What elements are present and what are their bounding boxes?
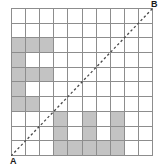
grid-cell-empty xyxy=(12,127,26,142)
grid-cell-empty xyxy=(40,112,54,127)
grid-cell-filled xyxy=(12,97,26,112)
grid-cell-empty xyxy=(12,9,26,24)
grid-cell-empty xyxy=(111,53,125,68)
grid-cell-empty xyxy=(26,112,40,127)
grid-cell-empty xyxy=(97,53,111,68)
grid-cell-filled xyxy=(111,141,125,156)
grid-cell-empty xyxy=(54,53,68,68)
grid-cell-empty xyxy=(40,53,54,68)
grid-cell-filled xyxy=(26,68,40,83)
grid-cell-filled xyxy=(97,141,111,156)
grid-cell-filled xyxy=(54,112,68,127)
grid-cell-empty xyxy=(139,53,153,68)
grid-cell-filled xyxy=(83,127,97,142)
grid-cell-empty xyxy=(125,82,139,97)
grid-cell-empty xyxy=(40,9,54,24)
grid-cell-empty xyxy=(68,68,82,83)
grid-cell-empty xyxy=(54,97,68,112)
grid-cell-empty xyxy=(139,112,153,127)
grid-cell-filled xyxy=(83,112,97,127)
grid-cell-empty xyxy=(40,141,54,156)
grid-cell-empty xyxy=(125,127,139,142)
grid-cell-empty xyxy=(111,68,125,83)
grid-cell-empty xyxy=(139,24,153,39)
grid-cell-empty xyxy=(40,127,54,142)
grid-cell-empty xyxy=(97,82,111,97)
figure-container: A B xyxy=(0,0,165,168)
grid-cell-filled xyxy=(68,141,82,156)
grid-cell-empty xyxy=(12,24,26,39)
grid-cell-filled xyxy=(40,38,54,53)
grid-cell-empty xyxy=(26,82,40,97)
grid-cell-empty xyxy=(125,141,139,156)
grid-cell-filled xyxy=(111,127,125,142)
cell-grid xyxy=(11,8,153,156)
grid-cell-empty xyxy=(83,9,97,24)
grid-cell-filled xyxy=(54,127,68,142)
grid-cell-empty xyxy=(54,9,68,24)
grid-cell-empty xyxy=(26,141,40,156)
grid-cell-empty xyxy=(111,24,125,39)
grid-cell-empty xyxy=(26,53,40,68)
grid-cell-empty xyxy=(111,38,125,53)
grid-cell-empty xyxy=(68,82,82,97)
grid-cell-empty xyxy=(68,53,82,68)
grid-cell-empty xyxy=(68,9,82,24)
grid-cell-filled xyxy=(12,38,26,53)
grid-cell-empty xyxy=(83,38,97,53)
grid-cell-empty xyxy=(97,68,111,83)
grid-cell-filled xyxy=(12,68,26,83)
grid-cell-empty xyxy=(68,127,82,142)
grid-cell-empty xyxy=(139,97,153,112)
grid-cell-empty xyxy=(83,82,97,97)
grid-cell-filled xyxy=(12,53,26,68)
grid-cell-empty xyxy=(54,68,68,83)
grid-cell-empty xyxy=(97,9,111,24)
grid-cell-empty xyxy=(12,141,26,156)
grid-cell-empty xyxy=(83,97,97,112)
label-point-a: A xyxy=(10,157,17,166)
grid-cell-empty xyxy=(125,112,139,127)
grid-cell-empty xyxy=(68,97,82,112)
grid-cell-empty xyxy=(139,68,153,83)
grid-cell-empty xyxy=(12,112,26,127)
grid-cell-empty xyxy=(111,97,125,112)
grid-cell-empty xyxy=(125,38,139,53)
grid-cell-empty xyxy=(125,97,139,112)
grid-cell-empty xyxy=(125,9,139,24)
grid-cell-empty xyxy=(83,24,97,39)
grid-cell-empty xyxy=(139,82,153,97)
grid-cell-empty xyxy=(125,24,139,39)
grid-cell-empty xyxy=(40,97,54,112)
grid-cell-empty xyxy=(54,24,68,39)
grid-cell-empty xyxy=(111,9,125,24)
grid-cell-empty xyxy=(54,82,68,97)
grid-cell-filled xyxy=(26,97,40,112)
grid-cell-filled xyxy=(40,68,54,83)
grid-cell-empty xyxy=(40,82,54,97)
grid-cell-empty xyxy=(68,112,82,127)
grid-cell-empty xyxy=(68,24,82,39)
grid-cell-empty xyxy=(83,53,97,68)
grid-cell-filled xyxy=(54,141,68,156)
grid-wrapper xyxy=(11,8,153,156)
grid-cell-filled xyxy=(83,141,97,156)
grid-cell-empty xyxy=(139,127,153,142)
grid-cell-empty xyxy=(26,24,40,39)
grid-cell-empty xyxy=(26,127,40,142)
grid-cell-filled xyxy=(111,112,125,127)
grid-cell-empty xyxy=(97,127,111,142)
grid-cell-empty xyxy=(97,38,111,53)
grid-cell-filled xyxy=(26,38,40,53)
grid-cell-empty xyxy=(139,9,153,24)
grid-cell-empty xyxy=(97,97,111,112)
grid-cell-empty xyxy=(97,24,111,39)
label-point-b: B xyxy=(151,0,158,9)
grid-cell-empty xyxy=(139,141,153,156)
grid-cell-empty xyxy=(139,38,153,53)
grid-cell-empty xyxy=(40,24,54,39)
grid-cell-empty xyxy=(26,9,40,24)
grid-cell-empty xyxy=(97,112,111,127)
grid-cell-empty xyxy=(54,38,68,53)
grid-cell-empty xyxy=(125,53,139,68)
